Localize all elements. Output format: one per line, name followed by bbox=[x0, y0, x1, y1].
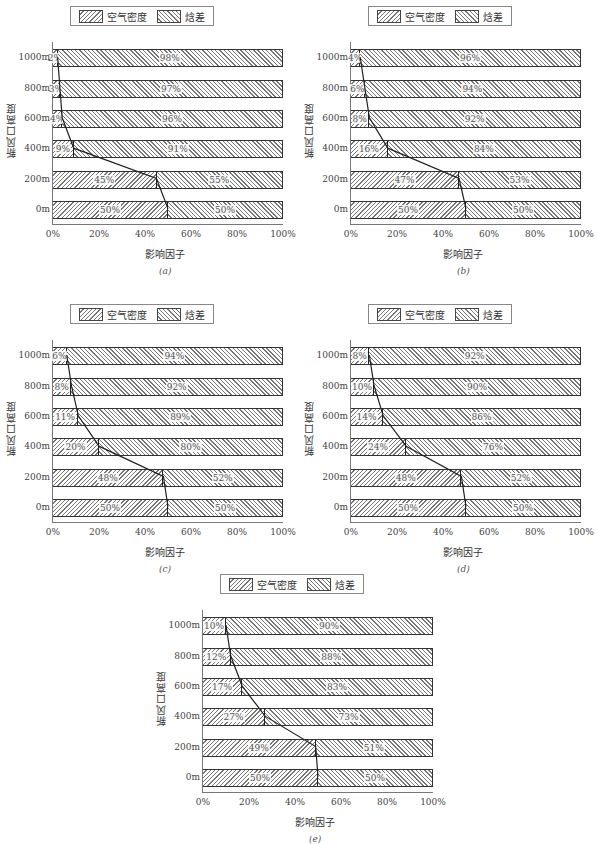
bar-segment-air-density: 50% bbox=[203, 770, 318, 786]
x-tick-label: 80% bbox=[377, 797, 397, 807]
y-tick-label: 400m bbox=[322, 143, 348, 153]
bar-segment-air-density: 4% bbox=[351, 50, 360, 66]
data-label: 8% bbox=[352, 114, 368, 124]
bar-row: 50%50% bbox=[351, 201, 581, 219]
plot-area: 50%50%0m48%52%200m20%80%400m11%89%600m8%… bbox=[52, 340, 283, 523]
bar-row: 50%50% bbox=[203, 769, 433, 787]
bar-segment-enthalpy: 94% bbox=[67, 348, 283, 364]
x-tick-label: 60% bbox=[479, 527, 499, 537]
data-label: 90% bbox=[466, 382, 488, 392]
legend-item-b: 焓差 bbox=[157, 307, 205, 322]
bar-segment-enthalpy: 92% bbox=[369, 348, 581, 364]
bar-segment-enthalpy: 97% bbox=[60, 81, 283, 97]
bar-segment-air-density: 50% bbox=[53, 500, 168, 516]
subfigure-caption: (e) bbox=[309, 834, 321, 844]
legend-item-b: 焓差 bbox=[307, 577, 355, 592]
data-label: 9% bbox=[55, 144, 71, 154]
bar-row: 9%91% bbox=[53, 140, 283, 158]
data-label: 16% bbox=[358, 144, 380, 154]
bar-segment-enthalpy: 52% bbox=[461, 470, 581, 486]
data-label: 80% bbox=[179, 442, 201, 452]
x-axis-title: 影响因子 bbox=[443, 246, 483, 261]
y-tick-label: 1000m bbox=[169, 620, 200, 630]
bar-row: 47%53% bbox=[351, 171, 581, 189]
y-tick-label: 600m bbox=[322, 113, 348, 123]
data-label: 91% bbox=[167, 144, 189, 154]
chart-legend: 空气密度焓差 bbox=[70, 304, 214, 324]
y-tick-label: 800m bbox=[24, 83, 50, 93]
chart-legend: 空气密度焓差 bbox=[220, 574, 364, 594]
y-tick-label: 200m bbox=[24, 174, 50, 184]
legend-swatch-icon bbox=[79, 10, 103, 23]
bar-segment-air-density: 50% bbox=[351, 500, 466, 516]
x-tick-label: 100% bbox=[270, 229, 296, 239]
bar-segment-air-density: 8% bbox=[53, 379, 71, 395]
bar-segment-air-density: 10% bbox=[203, 618, 226, 634]
bar-segment-enthalpy: 94% bbox=[365, 81, 581, 97]
bar-row: 10%90% bbox=[351, 378, 581, 396]
legend-swatch-icon bbox=[229, 578, 253, 591]
y-tick-label: 200m bbox=[174, 742, 200, 752]
plot-area: 50%50%0m48%52%200m24%76%400m14%86%600m10… bbox=[350, 340, 581, 523]
bar-segment-air-density: 3% bbox=[53, 81, 60, 97]
data-label: 55% bbox=[208, 175, 230, 185]
data-label: 6% bbox=[349, 84, 365, 94]
data-label: 96% bbox=[459, 53, 481, 63]
x-tick-label: 100% bbox=[568, 229, 594, 239]
x-tick-label: 20% bbox=[239, 797, 259, 807]
y-tick-label: 800m bbox=[322, 83, 348, 93]
bar-segment-air-density: 45% bbox=[53, 172, 157, 188]
chart-legend: 空气密度焓差 bbox=[368, 304, 512, 324]
x-tick-label: 40% bbox=[135, 229, 155, 239]
y-tick-label: 600m bbox=[322, 411, 348, 421]
data-label: 92% bbox=[464, 351, 486, 361]
data-label: 50% bbox=[99, 503, 121, 513]
bar-segment-enthalpy: 53% bbox=[459, 172, 581, 188]
bar-segment-air-density: 10% bbox=[351, 379, 374, 395]
x-tick-label: 40% bbox=[285, 797, 305, 807]
x-tick-label: 0% bbox=[344, 229, 358, 239]
bar-segment-air-density: 12% bbox=[203, 649, 231, 665]
x-tick-label: 100% bbox=[270, 527, 296, 537]
data-label: 52% bbox=[510, 473, 532, 483]
bar-segment-air-density: 6% bbox=[351, 81, 365, 97]
bar-segment-air-density: 16% bbox=[351, 141, 388, 157]
subfigure-caption: (d) bbox=[457, 564, 470, 574]
y-tick-label: 0m bbox=[334, 204, 348, 214]
data-label: 20% bbox=[64, 442, 86, 452]
data-label: 8% bbox=[54, 382, 70, 392]
bar-segment-enthalpy: 89% bbox=[78, 409, 283, 425]
x-tick-label: 60% bbox=[181, 229, 201, 239]
bar-segment-air-density: 48% bbox=[53, 470, 163, 486]
bar-row: 24%76% bbox=[351, 438, 581, 456]
trend-line bbox=[351, 42, 581, 224]
x-axis-title: 影响因子 bbox=[295, 814, 335, 829]
data-label: 47% bbox=[394, 175, 416, 185]
x-tick-label: 100% bbox=[568, 527, 594, 537]
bar-segment-air-density: 47% bbox=[351, 172, 459, 188]
data-label: 84% bbox=[473, 144, 495, 154]
y-tick-label: 800m bbox=[24, 381, 50, 391]
legend-label: 焓差 bbox=[483, 9, 503, 24]
data-label: 90% bbox=[318, 621, 340, 631]
y-tick-label: 200m bbox=[322, 174, 348, 184]
subfigure-caption: (a) bbox=[159, 266, 171, 276]
y-tick-label: 600m bbox=[24, 113, 50, 123]
trend-line bbox=[351, 340, 581, 522]
legend-item-b: 焓差 bbox=[157, 9, 205, 24]
y-axis-title: 新风口高度 bbox=[302, 401, 317, 456]
data-label: 83% bbox=[326, 682, 348, 692]
data-label: 14% bbox=[356, 412, 378, 422]
x-tick-label: 0% bbox=[196, 797, 210, 807]
data-label: 50% bbox=[249, 773, 271, 783]
bar-segment-enthalpy: 52% bbox=[163, 470, 283, 486]
legend-label: 空气密度 bbox=[405, 307, 445, 322]
data-label: 50% bbox=[214, 503, 236, 513]
x-tick-label: 40% bbox=[135, 527, 155, 537]
x-tick-label: 80% bbox=[227, 527, 247, 537]
y-tick-label: 0m bbox=[36, 204, 50, 214]
legend-item-a: 空气密度 bbox=[229, 577, 297, 592]
data-label: 10% bbox=[203, 621, 225, 631]
bar-row: 20%80% bbox=[53, 438, 283, 456]
data-label: 52% bbox=[212, 473, 234, 483]
